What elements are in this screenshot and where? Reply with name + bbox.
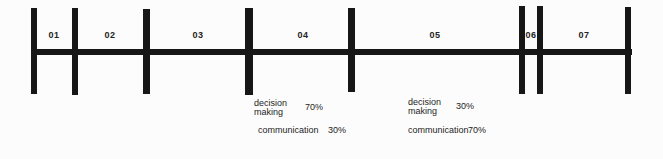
decision-making-value: 70% [305,102,323,112]
timeline-tick [537,6,543,94]
communication-label: communication [258,125,319,135]
communication-value: 70% [468,125,486,135]
timeline-tick [625,7,631,94]
segment-01-label: 01 [48,30,59,40]
communication-value: 30% [328,125,346,135]
timeline-tick [348,8,355,92]
segment-07-label: 07 [578,30,589,40]
decision-making-label: decision making [408,98,441,116]
segment-06-label: 06 [525,30,536,40]
timeline-tick [245,8,253,95]
timeline-tick [519,6,525,94]
timeline-tick [143,9,150,94]
segment-05-label: 05 [429,30,440,40]
segment-03-label: 03 [192,30,203,40]
timeline-tick [72,8,78,95]
decision-making-label: decision making [254,99,287,117]
decision-making-value: 30% [456,101,474,111]
timeline-diagram: 01 02 03 04 05 06 07 decision making 70%… [0,0,663,159]
timeline-tick [31,8,37,94]
communication-label: communication [408,125,469,135]
segment-04-label: 04 [297,30,308,40]
segment-02-label: 02 [104,30,115,40]
